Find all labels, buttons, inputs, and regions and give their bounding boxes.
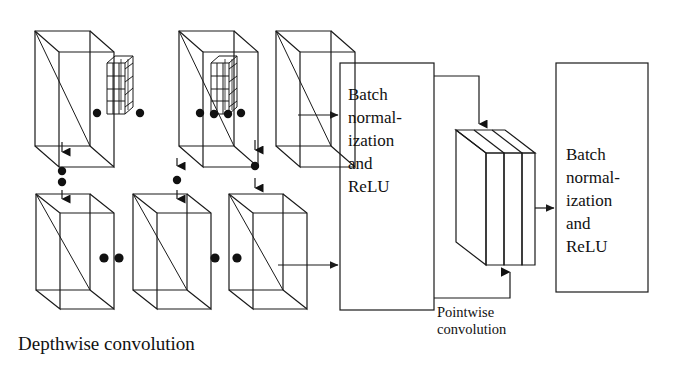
diagram-canvas: Batch normal- ization and ReLU Batch nor… bbox=[0, 0, 682, 380]
feature-map-cuboid-top-2 bbox=[179, 31, 258, 167]
feature-map-cuboid-bottom-3 bbox=[229, 194, 307, 309]
caption-pointwise-convolution: Pointwise convolution bbox=[437, 304, 506, 338]
dot-col2-1 bbox=[173, 176, 181, 184]
edge-bn1-to-pointwise-top bbox=[434, 76, 479, 124]
feature-map-cuboid-top-3 bbox=[276, 31, 355, 167]
kernel-grid-cuboid-top-1 bbox=[107, 56, 133, 114]
dot-col3-1 bbox=[251, 162, 259, 170]
batch-norm-box-2-label: Batch normal- ization and ReLU bbox=[566, 143, 620, 258]
feature-map-cuboid-bottom-1 bbox=[36, 194, 114, 309]
caption-depthwise-convolution: Depthwise convolution bbox=[18, 333, 195, 355]
dot-top-f bbox=[237, 109, 245, 117]
batch-norm-box-1-label: Batch normal- ization and ReLU bbox=[348, 83, 402, 198]
dot-top-b bbox=[136, 109, 144, 117]
dot-top-c bbox=[196, 109, 204, 117]
dot-bottom-a bbox=[99, 253, 108, 262]
dot-bottom-b bbox=[114, 253, 123, 262]
dot-top-e bbox=[224, 110, 232, 118]
dot-col1-2 bbox=[58, 178, 66, 186]
dot-top-d bbox=[210, 110, 218, 118]
dot-top-a bbox=[93, 109, 101, 117]
edge-bn1-to-pointwise-bottom bbox=[434, 272, 510, 298]
dot-col1-1 bbox=[58, 167, 66, 175]
pointwise-stacked-slabs bbox=[456, 130, 535, 265]
dot-bottom-d bbox=[232, 253, 241, 262]
feature-map-cuboid-bottom-2 bbox=[133, 194, 211, 309]
dot-bottom-c bbox=[210, 253, 219, 262]
feature-map-cuboid-top-1 bbox=[35, 31, 114, 167]
